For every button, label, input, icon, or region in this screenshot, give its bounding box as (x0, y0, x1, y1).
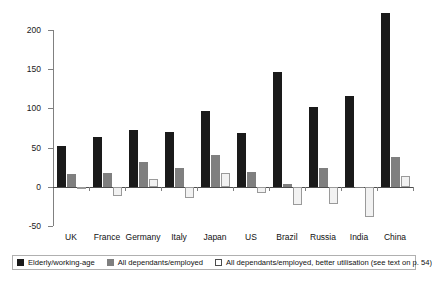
bar (401, 176, 410, 187)
x-tick-label: India (350, 233, 368, 242)
legend-label: Elderly/working-age (28, 259, 95, 267)
bar (237, 133, 246, 187)
x-tick (305, 187, 306, 191)
legend-label: All dependants/employed, better utilisat… (226, 259, 432, 267)
bar (201, 111, 210, 187)
bar (165, 132, 174, 187)
x-tick (341, 187, 342, 191)
bar (67, 174, 76, 187)
bar (185, 187, 194, 198)
bar (149, 179, 158, 187)
y-tick-label: 100 (27, 104, 41, 113)
bar (329, 187, 338, 204)
y-tick-label: 150 (27, 65, 41, 74)
bar (129, 130, 138, 186)
x-tick (161, 187, 162, 191)
y-axis-line (53, 30, 54, 226)
bar (391, 157, 400, 187)
bar (257, 187, 266, 193)
x-tick (413, 187, 414, 191)
x-tick (197, 187, 198, 191)
bar (57, 146, 66, 187)
bar (221, 173, 230, 186)
y-tick (48, 108, 53, 109)
bar (365, 187, 374, 217)
bar (381, 13, 390, 187)
y-tick (48, 148, 53, 149)
y-tick (48, 30, 53, 31)
bar (103, 173, 112, 186)
y-tick (48, 187, 53, 188)
x-tick-label: Japan (203, 233, 226, 242)
y-tick-label: -50 (29, 222, 41, 231)
white-square-icon (215, 259, 222, 266)
bar (355, 187, 364, 189)
x-tick-label: Brazil (276, 233, 297, 242)
gray-square-icon (107, 259, 114, 266)
bar (309, 107, 318, 187)
y-tick-label: 50 (32, 143, 41, 152)
legend-item-all-dependants-employed: All dependants/employed (107, 259, 203, 267)
x-tick (377, 187, 378, 191)
x-tick-label: France (94, 233, 120, 242)
bar (247, 172, 256, 187)
x-tick-label: Germany (126, 233, 161, 242)
black-square-icon (17, 259, 24, 266)
y-tick (48, 69, 53, 70)
x-tick-label: UK (65, 233, 77, 242)
x-tick (233, 187, 234, 191)
bar (273, 72, 282, 187)
bar (77, 187, 86, 189)
x-tick-label: China (384, 233, 406, 242)
bar (283, 184, 292, 186)
y-tick-label: 0 (36, 183, 41, 192)
legend-item-all-dependants-employed-better-utilisation: All dependants/employed, better utilisat… (215, 259, 432, 267)
plot-area: -50050100150200 (53, 30, 413, 226)
x-tick-label: Russia (310, 233, 336, 242)
legend-label: All dependants/employed (118, 259, 203, 267)
bar (113, 187, 122, 196)
bar (293, 187, 302, 205)
y-tick-label: 200 (27, 26, 41, 35)
legend-item-elderly-working-age: Elderly/working-age (17, 259, 95, 267)
x-tick (125, 187, 126, 191)
bar (211, 155, 220, 186)
chart-legend: Elderly/working-age All dependants/emplo… (12, 255, 416, 270)
x-tick-label: US (245, 233, 257, 242)
bar (319, 168, 328, 187)
x-tick (269, 187, 270, 191)
x-tick (89, 187, 90, 191)
x-tick-label: Italy (171, 233, 187, 242)
bar (175, 168, 184, 187)
y-tick (48, 226, 53, 227)
bar (139, 162, 148, 187)
bar (345, 96, 354, 187)
bar (93, 137, 102, 186)
